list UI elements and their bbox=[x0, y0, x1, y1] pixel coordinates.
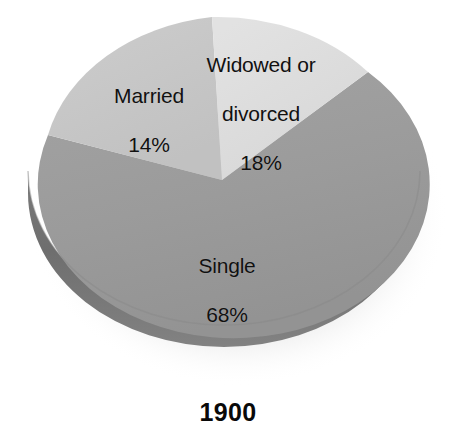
pie-chart-figure: Widowed or divorced 18% Married 14% Sing… bbox=[0, 0, 456, 447]
chart-title: 1900 bbox=[0, 398, 456, 427]
pie-chart-graphic bbox=[0, 0, 456, 447]
